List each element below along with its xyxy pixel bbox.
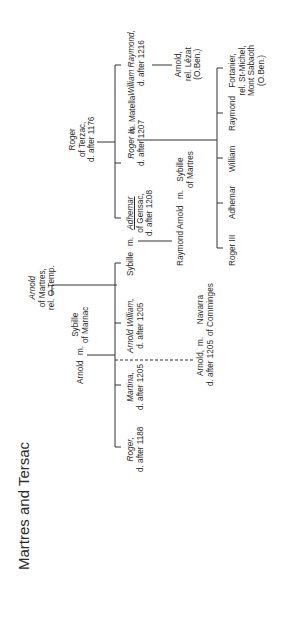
person-roger-iii: Roger III — [228, 235, 238, 266]
person-william: William — [228, 146, 238, 172]
line-arnold-martres — [52, 285, 117, 295]
person-william-raymond: William Raymond, d. after 1216 — [127, 30, 146, 96]
person-sybille: Sybille — [126, 252, 136, 276]
person-fortanier: Fortanier, rel. St-Michel, Mont Sabaoth … — [228, 45, 266, 96]
marriage-mark: m. — [128, 124, 138, 133]
marriage-mark: m. — [196, 337, 206, 346]
person-martina: Martina, d. after 1205 — [126, 364, 145, 410]
person-arnold-1205: Arnold, d. after 1205 — [196, 340, 215, 386]
marriage-mark: m. — [126, 237, 136, 246]
person-sybille-martres: Sybille of Martres — [176, 151, 195, 188]
person-raymond-arnold: Raymond Arnold — [176, 205, 186, 266]
person-adhemar: Adhemar — [228, 186, 238, 219]
person-sybille-marnac: Sybille of Marnac — [71, 307, 90, 343]
person-navarra: Navarra of Comminges — [196, 283, 215, 336]
person-arnold-martres: Arnold of Martres, rel. O.Temp. — [28, 265, 57, 310]
person-matella: Matella — [128, 96, 138, 122]
person-roger-terzac: Roger of Terzac, d. after 1176 — [68, 117, 97, 162]
person-roger-1188: Roger, d. after 1188 — [126, 427, 145, 472]
person-arnold: Arnold — [76, 360, 86, 384]
marriage-mark: m. — [76, 346, 86, 355]
person-arnold-william: Arnold William, d. after 1205 — [126, 298, 145, 353]
person-adhemar-gensac: Adhemar of Gensac, d. after 1208 — [126, 190, 155, 236]
person-raymond: Raymond — [228, 96, 238, 131]
person-arnold-lezat: Arnold, rel. Lézat (O.Ben.) — [174, 47, 203, 81]
genealogy-diagram: Martres and Tersac — [0, 0, 299, 636]
marriage-mark: m. — [176, 190, 186, 199]
